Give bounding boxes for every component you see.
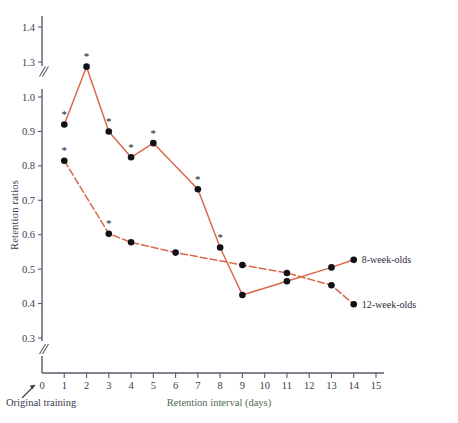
data-point [217,244,224,251]
data-point [239,292,246,299]
retention-ratio-chart: 0.30.40.50.60.70.80.91.01.31.4Retention … [0,0,458,423]
data-point [83,63,90,70]
data-point [61,121,68,128]
x-tick-label: 3 [106,380,111,391]
data-point [106,230,113,237]
data-point [195,186,202,193]
data-point [128,239,135,246]
axis-break-mark [40,344,49,354]
x-tick-label: 1 [62,380,67,391]
data-point [328,282,335,289]
significance-star: * [217,231,223,243]
series-8-week-olds: ******* [61,50,357,298]
x-tick-label: 15 [371,380,382,391]
y-tick-label: 0.7 [22,195,35,206]
data-point [350,257,357,264]
y-tick-label: 1.0 [22,92,35,103]
data-point [350,301,357,308]
y-tick-label: 1.3 [22,57,35,68]
y-tick-label: 1.4 [22,22,36,33]
y-tick-label: 0.5 [22,264,35,275]
data-series-group: *********8-week-olds12-week-olds [61,50,416,310]
x-tick-label: 7 [195,380,200,391]
significance-star: * [151,127,157,139]
y-tick-label: 0.3 [22,333,35,344]
significance-star: * [128,141,134,153]
data-point [239,262,246,269]
series-12-week-olds: ** [61,144,357,307]
data-point [128,154,135,161]
x-tick-label: 5 [151,380,156,391]
x-tick-label: 10 [259,380,270,391]
y-tick-label: 0.8 [22,160,35,171]
x-tick-label: 0 [39,380,44,391]
significance-star: * [84,50,90,62]
x-tick-label: 4 [128,380,134,391]
significance-star: * [62,108,68,120]
y-axis-title: Retention ratios [9,180,20,250]
data-point [106,128,113,135]
legend-label-8-week-olds: 8-week-olds [362,254,412,265]
x-axis: 0123456789101112131415Retention interval… [39,373,384,409]
original-training-label: Original training [6,397,77,408]
y-tick-label: 0.9 [22,126,35,137]
data-point [61,157,68,164]
y-tick-label: 0.4 [22,298,36,309]
significance-star: * [106,115,112,127]
axis-break-mark [40,67,49,77]
legend-label-12-week-olds: 12-week-olds [362,299,417,310]
data-point [284,278,291,285]
series-line-8-week-olds [64,67,353,295]
data-point [284,270,291,277]
x-axis-title: Retention interval (days) [167,397,272,409]
y-axis: 0.30.40.50.60.70.80.91.01.31.4Retention … [9,16,49,373]
y-tick-label: 0.6 [22,229,35,240]
x-tick-label: 13 [326,380,337,391]
data-point [150,140,157,147]
x-tick-label: 2 [84,380,89,391]
x-tick-label: 11 [282,380,292,391]
x-tick-label: 6 [173,380,178,391]
significance-star: * [106,217,112,229]
significance-star: * [195,173,201,185]
x-tick-label: 8 [218,380,223,391]
x-tick-label: 9 [240,380,245,391]
x-tick-label: 14 [348,380,359,391]
significance-star: * [62,144,68,156]
chart-canvas: 0.30.40.50.60.70.80.91.01.31.4Retention … [0,0,458,423]
x-tick-label: 12 [304,380,315,391]
data-point [328,264,335,271]
data-point [172,249,179,256]
